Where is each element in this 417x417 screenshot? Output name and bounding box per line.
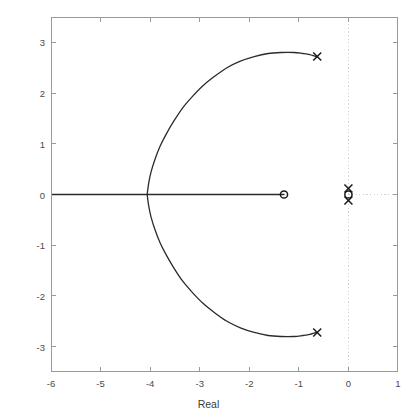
- plot-area: [51, 17, 398, 372]
- axes-frame: [51, 17, 398, 372]
- x-tick-label: -2: [245, 378, 253, 389]
- x-axis-label: Real: [0, 398, 417, 410]
- y-tick-label: 3: [25, 37, 45, 48]
- y-tick-label: 2: [25, 88, 45, 99]
- x-tick-label: -4: [146, 378, 154, 389]
- y-tick-label: -2: [25, 290, 45, 301]
- y-tick-label: -1: [25, 240, 45, 251]
- x-tick-label: -1: [295, 378, 303, 389]
- x-tick-label: 1: [395, 378, 400, 389]
- y-tick-label: 1: [25, 138, 45, 149]
- y-tick-label: -3: [25, 341, 45, 352]
- y-tick-label: 0: [25, 189, 45, 200]
- x-tick-label: -6: [47, 378, 55, 389]
- x-tick-label: -5: [96, 378, 104, 389]
- root-locus-figure: -6-5-4-3-2-101 -3-2-10123 Real Imaginary: [0, 0, 417, 417]
- x-tick-label: -3: [195, 378, 203, 389]
- x-tick-label: 0: [346, 378, 351, 389]
